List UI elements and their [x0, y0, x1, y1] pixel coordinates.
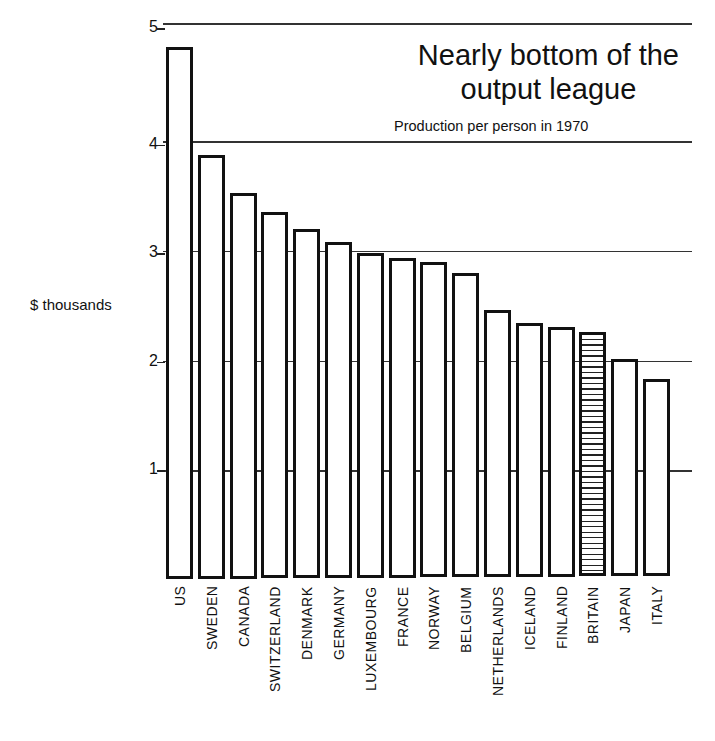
- x-label-norway: NORWAY: [426, 586, 442, 650]
- x-label-denmark: DENMARK: [299, 586, 315, 660]
- x-label-germany: GERMANY: [331, 586, 347, 660]
- x-label-japan: JAPAN: [617, 586, 633, 633]
- x-label-canada: CANADA: [236, 586, 252, 647]
- x-label-switzerland: SWITZERLAND: [267, 586, 283, 692]
- x-label-iceland: ICELAND: [522, 586, 538, 650]
- x-label-netherlands: NETHERLANDS: [490, 586, 506, 696]
- x-label-luxembourg: LUXEMBOURG: [363, 586, 379, 691]
- x-label-belgium: BELGIUM: [458, 586, 474, 653]
- x-label-britain: BRITAIN: [585, 586, 601, 644]
- x-label-us: US: [172, 586, 188, 606]
- x-label-france: FRANCE: [395, 586, 411, 647]
- x-label-sweden: SWEDEN: [204, 586, 220, 650]
- x-label-italy: ITALY: [649, 586, 665, 625]
- x-axis-labels: USSWEDENCANADASWITZERLANDDENMARKGERMANYL…: [0, 0, 715, 741]
- x-label-finland: FINLAND: [554, 586, 570, 649]
